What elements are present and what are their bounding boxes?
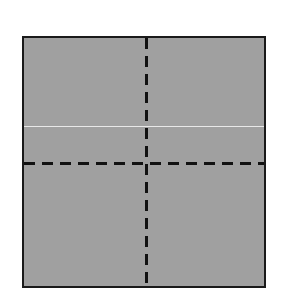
horizontal-dashed-divider (24, 162, 264, 165)
square-diagram (22, 36, 266, 288)
thin-white-line (24, 126, 264, 127)
